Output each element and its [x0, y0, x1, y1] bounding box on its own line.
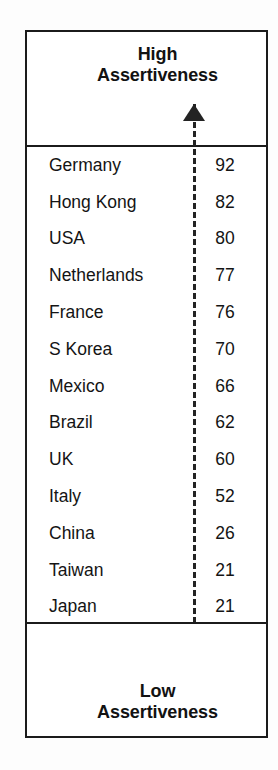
high-assertiveness-label-line1: High: [49, 44, 266, 65]
country-name: Japan: [49, 596, 97, 617]
high-assertiveness-label-line2: Assertiveness: [49, 65, 266, 86]
table-row: Italy52: [27, 478, 266, 515]
country-score: 77: [203, 265, 247, 286]
country-score: 66: [203, 376, 247, 397]
arrow-up-icon: [183, 104, 205, 121]
country-score: 80: [203, 228, 247, 249]
country-score: 62: [203, 412, 247, 433]
table-row: USA80: [27, 221, 266, 258]
country-name: UK: [49, 449, 73, 470]
country-name: S Korea: [49, 339, 112, 360]
country-name: USA: [49, 228, 85, 249]
country-name: Germany: [49, 155, 121, 176]
low-assertiveness-label: Low Assertiveness: [27, 681, 266, 723]
table-row: China26: [27, 515, 266, 552]
low-assertiveness-panel: Low Assertiveness: [27, 622, 266, 736]
high-assertiveness-label: High Assertiveness: [27, 44, 266, 86]
country-name: Hong Kong: [49, 192, 137, 213]
table-row: S Korea70: [27, 331, 266, 368]
country-score: 52: [203, 486, 247, 507]
low-assertiveness-label-line2: Assertiveness: [49, 702, 266, 723]
country-score: 21: [203, 560, 247, 581]
table-row: Germany92: [27, 147, 266, 184]
assertiveness-figure: High Assertiveness Germany92Hong Kong82U…: [25, 30, 268, 738]
country-ranking-table: Germany92Hong Kong82USA80Netherlands77Fr…: [27, 147, 266, 626]
country-score: 60: [203, 449, 247, 470]
table-row: France76: [27, 294, 266, 331]
country-score: 70: [203, 339, 247, 360]
table-row: Netherlands77: [27, 257, 266, 294]
country-name: Mexico: [49, 376, 104, 397]
high-assertiveness-panel: High Assertiveness: [27, 32, 266, 147]
country-name: Italy: [49, 486, 81, 507]
table-row: Mexico66: [27, 368, 266, 405]
table-row: Brazil62: [27, 405, 266, 442]
country-score: 92: [203, 155, 247, 176]
country-name: China: [49, 523, 95, 544]
table-row: Hong Kong82: [27, 184, 266, 221]
table-row: UK60: [27, 441, 266, 478]
country-score: 82: [203, 192, 247, 213]
low-assertiveness-label-line1: Low: [49, 681, 266, 702]
country-name: Netherlands: [49, 265, 143, 286]
table-row: Taiwan21: [27, 552, 266, 589]
country-score: 21: [203, 596, 247, 617]
country-name: Taiwan: [49, 560, 103, 581]
country-score: 76: [203, 302, 247, 323]
table-row: Japan21: [27, 589, 266, 626]
country-name: France: [49, 302, 103, 323]
country-score: 26: [203, 523, 247, 544]
country-name: Brazil: [49, 412, 93, 433]
